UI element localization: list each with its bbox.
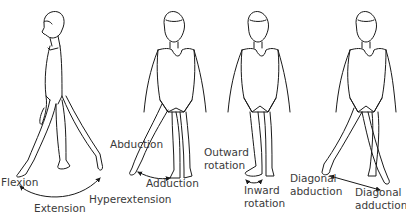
label-extension: Extension [34,202,86,215]
figure-front-abduction [130,11,206,178]
label-diagonal-adduction: Diagonal adduction [355,186,406,212]
hip-motion-diagram: Flexion Extension Hyperextension Abducti… [0,0,406,217]
label-outward-rotation: Outward rotation [204,146,249,172]
label-hyperextension: Hyperextension [89,193,172,206]
label-inward-rotation: Inward rotation [244,184,285,210]
figure-front-diagonal [322,11,396,190]
label-flexion: Flexion [1,176,38,189]
label-diagonal-abduction: Diagonal abduction [290,172,342,198]
figures-illustration [0,0,406,217]
label-adduction: Adduction [146,177,199,190]
label-abduction: Abduction [110,138,163,151]
figure-side-view [17,11,103,197]
